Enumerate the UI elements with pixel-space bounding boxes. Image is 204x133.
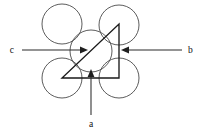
arrow-c: c — [10, 45, 88, 55]
figure-container: a b c — [0, 0, 204, 133]
lattice-diagram: a b c — [0, 0, 204, 133]
arrow-c-head — [80, 47, 88, 54]
label-c: c — [10, 45, 14, 55]
arrow-b-head — [121, 47, 129, 54]
label-b: b — [188, 45, 193, 55]
top-left-circle — [42, 4, 82, 44]
arrow-a-head — [88, 69, 95, 77]
label-a: a — [89, 119, 94, 129]
right-triangle — [62, 24, 119, 78]
arrow-b: b — [121, 45, 193, 55]
